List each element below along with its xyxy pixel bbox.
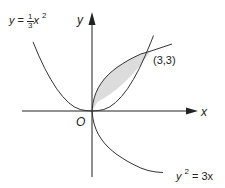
shaded-area: [92, 51, 151, 111]
eq1-var: x: [34, 14, 40, 26]
y-axis-label: y: [77, 14, 83, 26]
eq2-power: 2: [185, 167, 189, 176]
equation-label-parabola-up: y = 13x2: [9, 12, 46, 30]
eq2-lhs: y: [176, 170, 182, 182]
equation-label-parabola-right: y2 = 3x: [176, 168, 213, 182]
origin-label: O: [76, 116, 85, 128]
y-axis-arrow: [89, 12, 96, 25]
curve-y-equals-third-x-squared: [33, 36, 154, 112]
eq1-lhs: y: [9, 14, 15, 26]
eq2-rhs: = 3x: [192, 170, 213, 182]
eq1-power: 2: [42, 11, 46, 20]
x-axis-label: x: [201, 106, 207, 118]
intersection-label: (3,3): [153, 55, 176, 66]
eq1-equals: =: [18, 14, 24, 26]
x-axis-arrow: [186, 108, 198, 115]
